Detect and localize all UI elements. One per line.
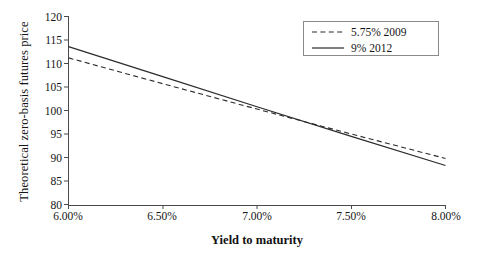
y-tick-marks bbox=[64, 17, 68, 205]
data-series-group bbox=[69, 47, 446, 166]
legend-item-0: 5.75% 2009 bbox=[304, 23, 440, 40]
legend-solid-line-icon bbox=[311, 43, 345, 53]
legend-item-1: 9% 2012 bbox=[304, 39, 440, 56]
legend-dashed-line-icon bbox=[311, 27, 345, 37]
series-line-9-2012 bbox=[69, 47, 446, 166]
legend-label-0: 5.75% 2009 bbox=[351, 26, 407, 38]
legend: 5.75% 2009 9% 2012 bbox=[303, 21, 439, 56]
chart-figure: Theoretical zero-basis futures price 120… bbox=[0, 0, 478, 264]
legend-label-1: 9% 2012 bbox=[351, 42, 392, 54]
series-line-5-75-2009 bbox=[69, 58, 446, 159]
